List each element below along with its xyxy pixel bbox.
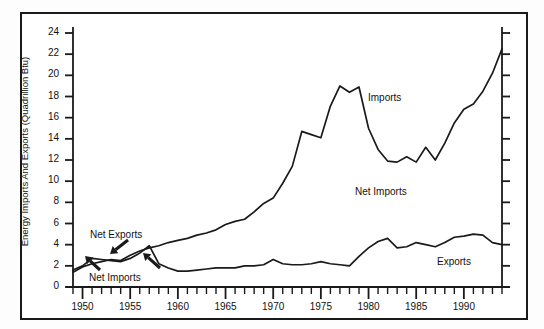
y-tick-label: 20 xyxy=(33,68,59,79)
y-tick-label: 2 xyxy=(33,259,59,270)
x-tick-label: 1985 xyxy=(394,301,438,312)
series-label-imports: Imports xyxy=(368,92,401,103)
y-tick-label: 6 xyxy=(33,217,59,228)
x-tick-label: 1980 xyxy=(347,301,391,312)
x-tick-label: 1950 xyxy=(61,301,105,312)
y-tick-label: 14 xyxy=(33,132,59,143)
y-tick-label: 8 xyxy=(33,195,59,206)
x-tick-label: 1970 xyxy=(251,301,295,312)
series-label-exports: Exports xyxy=(437,256,471,267)
y-tick-label: 4 xyxy=(33,238,59,249)
y-tick-label: 0 xyxy=(33,280,59,291)
region-label-net-imports: Net Imports xyxy=(355,186,407,197)
chart-figure: Energy Imports And Exports (Quadrillion … xyxy=(0,0,544,329)
y-tick-label: 12 xyxy=(33,153,59,164)
y-tick-label: 16 xyxy=(33,111,59,122)
x-tick-label: 1975 xyxy=(299,301,343,312)
x-tick-label: 1990 xyxy=(442,301,486,312)
x-tick-label: 1960 xyxy=(156,301,200,312)
callout-label-net-imports: Net Imports xyxy=(89,272,141,283)
y-tick-label: 18 xyxy=(33,90,59,101)
y-tick-label: 10 xyxy=(33,174,59,185)
x-tick-label: 1965 xyxy=(204,301,248,312)
y-tick-label: 24 xyxy=(33,26,59,37)
y-tick-label: 22 xyxy=(33,47,59,58)
callout-label-net-exports: Net Exports xyxy=(90,229,142,240)
x-tick-label: 1955 xyxy=(108,301,152,312)
arrow-net-exports-shaft xyxy=(116,240,128,250)
plot-area xyxy=(0,0,544,329)
